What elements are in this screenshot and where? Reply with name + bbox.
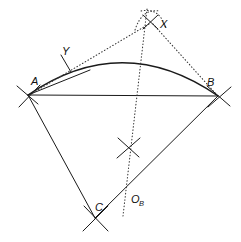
arc-group bbox=[28, 63, 218, 96]
chord-line-ab bbox=[28, 95, 218, 96]
label-point-c: C bbox=[95, 201, 103, 213]
label-point-o-subscript: B bbox=[139, 199, 144, 208]
label-point-a: A bbox=[30, 75, 38, 87]
kite-outline bbox=[28, 95, 218, 218]
point-labels: A B C X Y O B bbox=[30, 18, 214, 213]
geometric-construction-figure: A B C X Y O B bbox=[0, 0, 241, 242]
label-point-y: Y bbox=[62, 45, 70, 57]
arc-ab bbox=[28, 63, 218, 96]
label-point-x: X bbox=[159, 18, 168, 30]
arc-cross-marks bbox=[117, 10, 166, 158]
side-line-cb bbox=[95, 96, 218, 218]
dotted-construction-lines bbox=[31, 9, 216, 216]
tick-at-a-stroke-2 bbox=[19, 85, 40, 107]
dotted-perpendicular-bisector bbox=[123, 9, 147, 216]
tick-at-y bbox=[61, 55, 71, 72]
side-line-ac bbox=[28, 95, 95, 218]
tick-at-y-stroke-1 bbox=[61, 55, 71, 72]
dotted-line-x-to-a bbox=[31, 24, 149, 94]
label-point-b: B bbox=[207, 76, 214, 88]
construction-canvas: A B C X Y O B bbox=[0, 0, 241, 242]
arc-cross-mid bbox=[117, 138, 140, 158]
tick-at-a bbox=[17, 85, 40, 107]
